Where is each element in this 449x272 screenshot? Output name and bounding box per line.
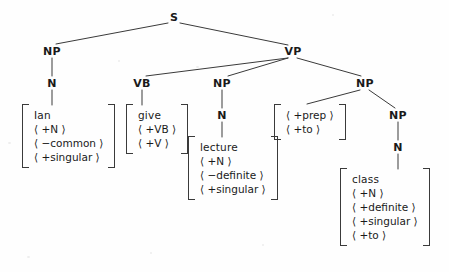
tree-node-np-subject: NP [43,45,61,58]
feature-matrix-prep: ⟨ +prep ⟩ ⟨ +to ⟩ [274,104,346,140]
bracket-left-icon [188,136,195,200]
scan-artifact [118,60,120,62]
feature-row: ⟨ −common ⟩ [34,136,103,150]
scan-artifact [262,244,264,246]
feature-row: ⟨ +N ⟩ [34,122,103,136]
feature-matrix-ian: Ian ⟨ +N ⟩ ⟨ −common ⟩ ⟨ +singular ⟩ [22,104,115,168]
bracket-right-icon [108,104,115,168]
feature-row: ⟨ +N ⟩ [200,154,266,168]
edge-vp-np2 [228,58,288,76]
edge-np3-prep [307,90,360,104]
edge-vp-np3 [297,58,361,76]
edge-np3-np4 [369,90,395,108]
feature-row: ⟨ +definite ⟩ [352,200,418,214]
tree-node-vb: VB [133,77,151,90]
feature-row: ⟨ +to ⟩ [352,228,418,242]
scan-artifact [196,66,199,68]
bracket-left-icon [340,168,347,246]
feature-row: ⟨ −definite ⟩ [200,168,266,182]
lexeme-label: lecture [200,140,266,154]
bracket-left-icon [274,104,281,140]
tree-node-n-object: N [217,109,227,122]
scan-artifact [332,14,334,16]
edge-vp-vb [146,58,288,76]
feature-row: ⟨ +to ⟩ [286,122,334,136]
feature-row: ⟨ +N ⟩ [352,186,418,200]
tree-node-n-subject: N [47,77,57,90]
tree-node-np-inner: NP [389,109,407,122]
bracket-right-icon [271,136,278,200]
edge-s-vp [180,23,288,45]
bracket-right-icon [423,168,430,246]
feature-row: ⟨ +singular ⟩ [352,214,418,228]
tree-node-s: S [170,11,178,24]
tree-node-vp: VP [284,45,301,58]
tree-node-n-inner: N [393,141,403,154]
lexeme-label: Ian [34,108,103,122]
scan-artifact [27,256,30,258]
feature-row: ⟨ +prep ⟩ [286,108,334,122]
scan-artifact [8,142,11,144]
bracket-right-icon [181,104,188,154]
tree-node-np-object: NP [213,77,231,90]
edge-s-np1 [56,23,168,44]
lexeme-label: class [352,172,418,186]
feature-row: ⟨ +VB ⟩ [138,122,176,136]
feature-row: ⟨ +singular ⟩ [34,150,103,164]
feature-matrix-lecture: lecture ⟨ +N ⟩ ⟨ −definite ⟩ ⟨ +singular… [188,136,278,200]
scan-artifact [150,252,152,254]
syntax-tree-figure: S NP VP N VB NP NP N NP N Ian ⟨ +N ⟩ ⟨ −… [0,0,449,272]
bracket-right-icon [339,104,346,140]
lexeme-label: give [138,108,176,122]
feature-row: ⟨ +V ⟩ [138,136,176,150]
tree-node-np-oblique: NP [356,77,374,90]
feature-row: ⟨ +singular ⟩ [200,182,266,196]
feature-matrix-class: class ⟨ +N ⟩ ⟨ +definite ⟩ ⟨ +singular ⟩… [340,168,430,246]
bracket-left-icon [22,104,29,168]
bracket-left-icon [126,104,133,154]
feature-matrix-give: give ⟨ +VB ⟩ ⟨ +V ⟩ [126,104,188,154]
